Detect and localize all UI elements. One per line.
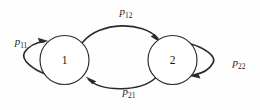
label-p11: p11 — [14, 35, 28, 50]
label-p22-subscript: 22 — [238, 62, 246, 71]
state-2-label: 2 — [170, 54, 176, 66]
markov-chain-diagram: 1 2 p11 p12 p21 p22 — [0, 0, 260, 110]
label-p22: p22 — [232, 56, 246, 71]
state-node-2[interactable]: 2 — [148, 36, 197, 85]
transition-p12 — [83, 26, 161, 43]
label-p12-subscript: 12 — [125, 11, 133, 20]
state-node-1[interactable]: 1 — [40, 36, 89, 85]
state-diagram-canvas: 1 2 p11 p12 p21 p22 — [0, 0, 260, 110]
transition-p12-arc — [83, 26, 159, 43]
state-1-label: 1 — [62, 54, 68, 66]
label-p12: p12 — [119, 5, 133, 20]
label-p21-subscript: 21 — [128, 91, 136, 100]
label-p11-subscript: 11 — [20, 41, 27, 50]
transition-p21 — [86, 77, 156, 89]
